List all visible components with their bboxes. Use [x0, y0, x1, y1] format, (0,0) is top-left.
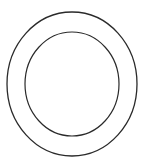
ring-drawing	[0, 0, 146, 167]
ring-diagram	[0, 0, 146, 167]
inner-ellipse	[25, 32, 119, 136]
outer-ellipse	[7, 12, 137, 156]
